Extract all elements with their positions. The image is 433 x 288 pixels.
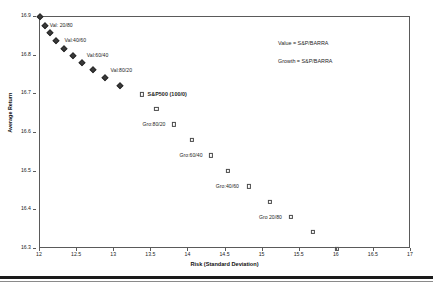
- x-tick-mark: [262, 248, 263, 251]
- x-tick-label: 16.5: [368, 252, 378, 257]
- data-point-growth: [190, 138, 194, 142]
- x-tick-label: 14: [185, 252, 191, 257]
- y-tick-label: 16.6: [21, 129, 31, 134]
- x-tick-label: 16: [333, 252, 339, 257]
- point-label: Val:60/40: [87, 53, 109, 58]
- x-axis-title: Risk (Standard Deviation): [39, 262, 410, 268]
- data-point-growth: [154, 107, 158, 111]
- point-label: S&P500 (100/0): [148, 92, 187, 97]
- y-tick-mark: [33, 132, 36, 133]
- y-tick-mark: [33, 171, 36, 172]
- data-point-value: [69, 52, 77, 60]
- y-tick-mark: [33, 248, 36, 249]
- y-tick-label: 16.7: [21, 91, 31, 96]
- page-rule-thin: [0, 281, 433, 282]
- legend-entry: Growth = S&P/BARRA: [278, 59, 332, 64]
- y-tick-label: 16.3: [21, 245, 31, 250]
- data-point-value: [46, 29, 54, 37]
- data-point-growth: [171, 122, 175, 126]
- x-tick-label: 15.5: [294, 252, 304, 257]
- x-tick-mark: [187, 248, 188, 251]
- data-point-value: [60, 45, 68, 53]
- x-tick-label: 13.5: [145, 252, 155, 257]
- x-tick-label: 13: [110, 252, 116, 257]
- y-axis-ticks: 16.916.816.716.616.516.416.3: [0, 16, 36, 248]
- data-point-value: [78, 59, 86, 67]
- x-tick-mark: [410, 248, 411, 251]
- y-tick-label: 16.9: [21, 13, 31, 18]
- point-label: Gro:80/20: [142, 122, 165, 127]
- point-label: Val:40/60: [64, 38, 86, 43]
- data-point-value: [41, 22, 49, 30]
- data-point-growth: [226, 169, 230, 173]
- data-point-growth: [247, 184, 251, 188]
- x-tick-label: 12: [36, 252, 42, 257]
- data-point-value: [101, 74, 109, 82]
- y-tick-label: 16.4: [21, 207, 31, 212]
- data-point-value: [52, 37, 60, 45]
- scatter-chart: 16.916.816.716.616.516.416.3 Average Ret…: [0, 0, 433, 288]
- point-label: Val:80/20: [110, 68, 132, 73]
- x-tick-label: 15: [259, 252, 265, 257]
- x-tick-mark: [299, 248, 300, 251]
- y-tick-mark: [33, 93, 36, 94]
- point-label: Gro:40/60: [216, 184, 239, 189]
- data-point-growth: [311, 230, 315, 234]
- point-label: Val: 20/80: [50, 23, 73, 28]
- data-point-growth: [268, 200, 272, 204]
- data-point-growth: [209, 153, 213, 157]
- legend-entry: Value = S&P/BARRA: [278, 41, 328, 46]
- x-tick-mark: [113, 248, 114, 251]
- x-tick-mark: [225, 248, 226, 251]
- x-tick-mark: [150, 248, 151, 251]
- data-point-growth: [140, 92, 144, 96]
- data-point-growth: [289, 215, 293, 219]
- x-tick-mark: [76, 248, 77, 251]
- y-axis-title: Average Return: [8, 78, 13, 148]
- point-label: Gro:60/40: [179, 153, 202, 158]
- x-tick-mark: [373, 248, 374, 251]
- data-point-value: [116, 82, 124, 90]
- x-tick-label: 12.5: [71, 252, 81, 257]
- y-tick-mark: [33, 209, 36, 210]
- point-label: Gro 20/80: [259, 215, 282, 220]
- y-tick-label: 16.5: [21, 168, 31, 173]
- page-rule-thick: [0, 276, 433, 279]
- y-tick-mark: [33, 55, 36, 56]
- x-tick-mark: [336, 248, 337, 251]
- data-point-value: [36, 13, 44, 21]
- data-point-value: [90, 67, 98, 75]
- x-tick-label: 14.5: [219, 252, 229, 257]
- x-tick-label: 17: [407, 252, 413, 257]
- y-tick-label: 16.8: [21, 52, 31, 57]
- x-tick-mark: [39, 248, 40, 251]
- plot-area: Val: 20/80Val:40/60Val:60/40Val:80/20S&P…: [39, 16, 410, 248]
